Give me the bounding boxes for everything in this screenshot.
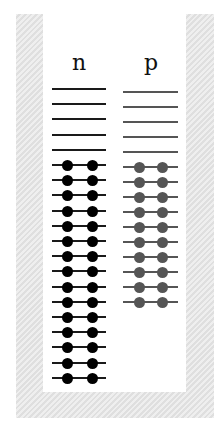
electron-dot — [87, 160, 98, 171]
electron-dot — [62, 175, 73, 186]
filled-level — [52, 316, 106, 318]
electron-dot — [87, 282, 98, 293]
filled-level — [52, 301, 106, 303]
filled-level — [52, 362, 106, 364]
electron-dot — [157, 282, 168, 293]
electron-dot — [87, 251, 98, 262]
filled-level — [123, 301, 178, 303]
empty-level — [52, 103, 106, 105]
electron-dot — [134, 162, 145, 173]
filled-level — [52, 194, 106, 196]
filled-level — [123, 226, 178, 228]
electron-dot — [134, 177, 145, 188]
filled-level — [52, 164, 106, 166]
empty-level — [123, 106, 178, 108]
electron-dot — [134, 282, 145, 293]
electron-dot — [62, 297, 73, 308]
electron-dot — [62, 160, 73, 171]
filled-level — [123, 271, 178, 273]
electron-dot — [87, 206, 98, 217]
electron-dot — [134, 222, 145, 233]
electron-dot — [134, 267, 145, 278]
empty-level — [123, 91, 178, 93]
filled-level — [52, 255, 106, 257]
filled-level — [52, 286, 106, 288]
empty-level — [52, 88, 106, 90]
electron-dot — [62, 327, 73, 338]
electron-dot — [62, 312, 73, 323]
electron-dot — [157, 297, 168, 308]
filled-level — [52, 225, 106, 227]
empty-level — [52, 134, 106, 136]
electron-dot — [62, 342, 73, 353]
filled-level — [123, 181, 178, 183]
electron-dot — [87, 221, 98, 232]
electron-dot — [87, 342, 98, 353]
filled-level — [52, 377, 106, 379]
electron-dot — [87, 236, 98, 247]
empty-level — [123, 121, 178, 123]
electron-dot — [134, 252, 145, 263]
electron-dot — [87, 312, 98, 323]
electron-dot — [157, 162, 168, 173]
column-label-p: p — [131, 50, 171, 75]
electron-dot — [62, 236, 73, 247]
electron-dot — [134, 207, 145, 218]
filled-level — [123, 286, 178, 288]
electron-dot — [157, 267, 168, 278]
electron-dot — [62, 358, 73, 369]
empty-level — [123, 136, 178, 138]
electron-dot — [62, 266, 73, 277]
electron-dot — [87, 327, 98, 338]
electron-dot — [134, 192, 145, 203]
electron-dot — [62, 206, 73, 217]
electron-dot — [157, 237, 168, 248]
electron-dot — [87, 297, 98, 308]
filled-level — [52, 179, 106, 181]
electron-dot — [157, 222, 168, 233]
electron-dot — [62, 282, 73, 293]
filled-level — [123, 211, 178, 213]
electron-dot — [87, 373, 98, 384]
electron-dot — [62, 190, 73, 201]
electron-dot — [87, 190, 98, 201]
electron-dot — [87, 358, 98, 369]
filled-level — [123, 256, 178, 258]
filled-level — [123, 196, 178, 198]
electron-dot — [157, 177, 168, 188]
filled-level — [52, 331, 106, 333]
electron-dot — [157, 252, 168, 263]
filled-level — [123, 241, 178, 243]
filled-level — [52, 346, 106, 348]
filled-level — [52, 240, 106, 242]
electron-dot — [157, 207, 168, 218]
empty-level — [52, 149, 106, 151]
filled-level — [52, 270, 106, 272]
electron-dot — [87, 266, 98, 277]
electron-dot — [62, 373, 73, 384]
electron-dot — [134, 237, 145, 248]
column-label-n: n — [59, 50, 99, 75]
electron-dot — [134, 297, 145, 308]
electron-dot — [62, 251, 73, 262]
electron-dot — [62, 221, 73, 232]
filled-level — [52, 210, 106, 212]
empty-level — [52, 118, 106, 120]
filled-level — [123, 166, 178, 168]
electron-dot — [157, 192, 168, 203]
empty-level — [123, 151, 178, 153]
electron-dot — [87, 175, 98, 186]
